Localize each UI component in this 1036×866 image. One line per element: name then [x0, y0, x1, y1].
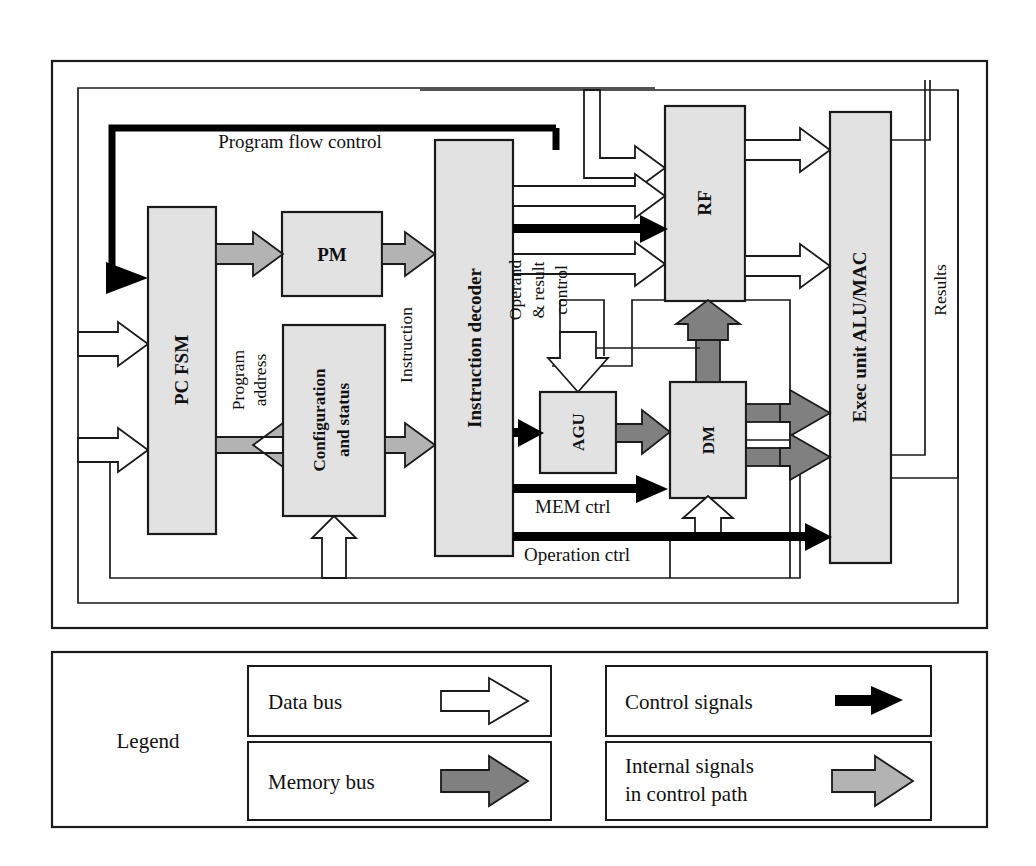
memory-bus-dm-to-rf	[676, 300, 740, 382]
route-results-up-2	[891, 80, 925, 455]
label-dm: DM	[699, 426, 718, 454]
control-arrow-decoder-to-rf	[513, 215, 668, 243]
label-instruction-decoder: Instruction decoder	[464, 267, 485, 427]
label-mem-ctrl: MEM ctrl	[535, 496, 610, 517]
data-arrow-topframe-to-rf	[584, 90, 665, 190]
internal-arrow-config-to-pcfsm	[216, 423, 283, 467]
data-arrow-decoder-to-rf-1	[513, 174, 665, 218]
internal-arrow-pm-to-decoder	[382, 232, 435, 276]
data-arrow-to-pcfsm-upper	[78, 322, 148, 366]
label-operation-ctrl: Operation ctrl	[524, 544, 630, 565]
memory-bus-dm-to-exec	[746, 390, 830, 480]
data-arrow-rf-to-exec-upper	[745, 128, 830, 172]
label-program-flow-control: Program flow control	[218, 131, 382, 152]
route-dm-bottom	[670, 540, 710, 578]
data-arrow-decoder-to-agu	[548, 332, 608, 392]
label-operand-result-line2: & result	[528, 261, 548, 318]
internal-arrow-pcfsm-to-pm	[216, 232, 283, 276]
label-rf: RF	[694, 190, 715, 215]
label-results: Results	[930, 264, 950, 316]
label-configuration-line2: and status	[334, 383, 353, 458]
label-program-address-line2: address	[250, 354, 270, 407]
label-agu: AGU	[569, 413, 588, 451]
legend-label-memory-bus: Memory bus	[268, 770, 375, 794]
legend-label-data-bus: Data bus	[268, 690, 342, 714]
data-arrow-into-configuration	[312, 516, 356, 578]
data-arrow-to-pcfsm-lower	[78, 428, 148, 472]
pc-fsm-input-data-arrows	[78, 322, 148, 472]
legend-label-internal-signals-line1: Internal signals	[625, 754, 754, 778]
label-instruction: Instruction	[396, 307, 416, 383]
label-exec-unit: Exec unit ALU/MAC	[849, 252, 870, 423]
legend-title: Legend	[117, 729, 180, 753]
label-pc-fsm: PC FSM	[171, 335, 192, 405]
label-operand-result-line1: Operand	[505, 260, 525, 321]
label-pm: PM	[317, 244, 347, 265]
label-configuration-line1: Configuration	[310, 368, 329, 472]
memory-bus-agu-to-dm	[616, 410, 670, 454]
internal-arrow-config-to-decoder	[385, 423, 435, 467]
legend-label-internal-signals-line2: in control path	[625, 782, 748, 806]
block-diagram-svg: PC FSM PM Configuration and status Instr…	[0, 0, 1036, 866]
figure-canvas: PC FSM PM Configuration and status Instr…	[0, 0, 1036, 866]
label-operand-result-line3: control	[551, 265, 571, 315]
decoder-to-rf-bus-group	[513, 90, 668, 286]
label-program-address-line1: Program	[228, 349, 248, 410]
legend-label-control-signals: Control signals	[625, 690, 753, 714]
pfc-arrowhead	[106, 262, 148, 294]
legend-group: Legend Data bus Memory bus Control signa…	[52, 652, 987, 827]
data-arrow-rf-to-exec-lower	[745, 244, 830, 288]
